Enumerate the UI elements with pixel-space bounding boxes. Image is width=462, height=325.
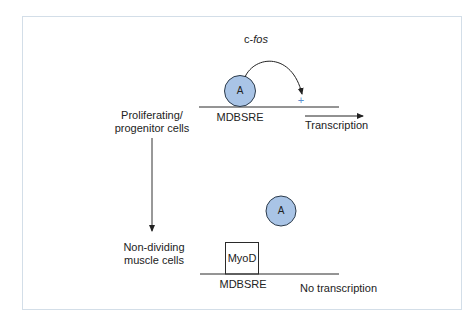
nondividing-label-line1: Non-dividing: [104, 241, 204, 254]
gene-label-prefix: c-: [244, 33, 253, 45]
mdbsre-label-bottom: MDBSRE: [213, 278, 273, 291]
no-transcription-label: No transcription: [300, 282, 377, 295]
mdbsre-label-top: MDBSRE: [210, 111, 270, 124]
transcription-label: Transcription: [305, 119, 368, 132]
nondividing-label-line2: muscle cells: [104, 254, 204, 267]
myod-label: MyoD: [225, 252, 259, 265]
proliferating-label-line2: progenitor cells: [102, 122, 202, 135]
proliferating-label-line1: Proliferating/: [102, 109, 202, 122]
bottom-state: [200, 196, 339, 274]
factor-a-bottom-label: A: [271, 204, 291, 217]
top-state: [199, 61, 363, 116]
gene-label: c-fos: [226, 33, 286, 46]
factor-a-top-label: A: [230, 84, 250, 97]
activation-plus: +: [294, 94, 308, 107]
gene-label-italic: fos: [253, 33, 268, 45]
